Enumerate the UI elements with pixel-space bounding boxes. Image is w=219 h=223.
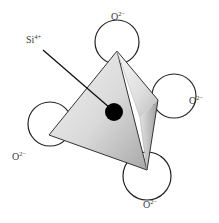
oxygen-label-left: O2−	[12, 150, 26, 162]
oxygen-label-bottom: O2−	[143, 198, 157, 210]
silicate-tetrahedron-diagram: Si4+ O2− O2− O2− O2−	[0, 0, 219, 223]
silicon-label: Si4+	[26, 33, 42, 45]
silicon-ion	[105, 103, 123, 121]
oxygen-label-right: O2−	[189, 94, 203, 106]
